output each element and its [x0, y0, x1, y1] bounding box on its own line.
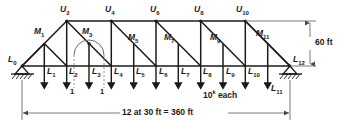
truss-diagram-figure: U2 U4 U6 U8 U10 M1 M3 M5 M7 M9 M11 L0 L1…	[0, 0, 348, 129]
node-label-l0: L0	[8, 55, 17, 66]
span-dimension-label: 12 at 30 ft = 360 ft	[122, 108, 193, 117]
node-label-l6: L6	[159, 67, 168, 78]
node-label-u4: U4	[105, 5, 114, 16]
node-label-u6: U6	[150, 5, 159, 16]
node-label-m7: M7	[164, 33, 174, 44]
node-label-l7: L7	[181, 67, 190, 78]
node-label-m11: M11	[256, 29, 269, 40]
node-label-m5: M5	[128, 33, 138, 44]
node-label-l9: L9	[226, 67, 235, 78]
node-label-u8: U8	[194, 5, 203, 16]
node-label-l11: L11	[271, 84, 283, 95]
unit-load-label-left: 1	[70, 88, 74, 96]
left-pin-support	[11, 66, 34, 79]
node-label-m9: M9	[210, 33, 220, 44]
node-label-u10: U10	[236, 5, 249, 16]
node-label-u2: U2	[60, 5, 69, 16]
node-label-l3: L3	[92, 67, 101, 78]
node-label-l4: L4	[114, 67, 123, 78]
height-dimension-label: 60 ft	[315, 38, 332, 47]
unit-load-label-right: 1	[100, 88, 104, 96]
node-label-m3: M3	[82, 27, 92, 38]
node-label-l2: L2	[69, 67, 78, 78]
node-label-l8: L8	[203, 67, 212, 78]
load-magnitude-label: 10k each	[203, 90, 237, 99]
node-label-l12: L12	[293, 55, 305, 66]
node-label-l10: L10	[248, 67, 260, 78]
node-label-m1: M1	[34, 27, 44, 38]
vertical-members	[44, 21, 267, 66]
node-label-l5: L5	[136, 67, 145, 78]
right-roller-support	[279, 66, 302, 79]
node-label-l1: L1	[47, 67, 56, 78]
